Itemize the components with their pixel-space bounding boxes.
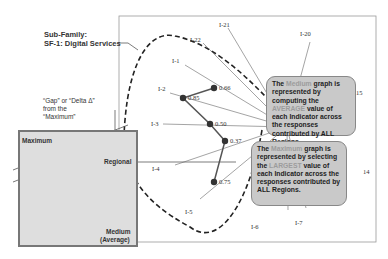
gap-line1: “Gap” or “Delta Δ”: [43, 97, 95, 105]
gap-line2: from the: [43, 105, 95, 113]
axis-label-i6: I-6: [251, 223, 259, 230]
axis-label-i5: I-5: [185, 208, 193, 215]
axis-label-i22: I-22: [190, 36, 201, 43]
axis-label-i15: 15: [356, 89, 363, 96]
callout-medium: The Medium graph is represented by compu…: [266, 76, 356, 136]
subfamily-label: Sub-Family: SF-1: Digital Services: [44, 30, 121, 48]
callout-maximum: The Maximum graph is represented by sele…: [251, 141, 347, 206]
subfamily-line2: SF-1: Digital Services: [44, 39, 121, 48]
gap-label: “Gap” or “Delta Δ” from the “Maximum”: [43, 97, 95, 121]
inset-regional-label: Regional: [104, 158, 131, 165]
gap-line3: “Maximum”: [43, 113, 95, 121]
callout-average-highlight: AVERAGE: [272, 105, 305, 112]
callout-maximum-text: The: [257, 145, 271, 152]
axis-label-i3: I-3: [151, 120, 159, 127]
axis-label-i14: 14: [363, 168, 370, 175]
inset-medium-label: Medium: [106, 228, 131, 235]
axis-label-i2: I-2: [158, 85, 166, 92]
axis-label-i21: I-21: [219, 21, 230, 28]
axis-label-i1: I-1: [172, 57, 180, 64]
inset-maximum-label: Maximum: [22, 137, 52, 144]
point-value-i2: 0.85: [188, 94, 199, 101]
axis-label-i4: I-4: [152, 165, 160, 172]
point-value-i3: 0.50: [215, 120, 226, 127]
inset-average-label: (Average): [100, 236, 130, 243]
axis-label-i7: I-7: [295, 219, 303, 226]
axis-label-i20: I-20: [300, 30, 311, 37]
point-value-i1: 0.66: [219, 84, 230, 91]
callout-maximum-highlight: Maximum: [271, 145, 302, 152]
subfamily-line1: Sub-Family:: [44, 30, 121, 39]
point-value-i4: 0.37: [230, 137, 241, 144]
callout-medium-text: The: [272, 80, 286, 87]
callout-largest-highlight: LARGEST: [269, 162, 301, 169]
callout-medium-highlight: Medium: [286, 80, 312, 87]
point-value-i5: 0.75: [219, 178, 230, 185]
